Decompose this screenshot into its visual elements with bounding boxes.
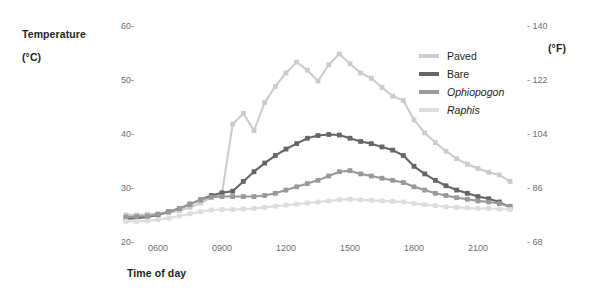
data-point-marker xyxy=(465,191,470,196)
legend: PavedBareOphiopogonRaphis xyxy=(419,47,504,119)
data-point-marker xyxy=(369,141,374,146)
data-point-marker xyxy=(486,170,491,175)
data-point-marker xyxy=(465,197,470,202)
data-point-marker xyxy=(156,211,161,216)
data-point-marker xyxy=(433,203,438,208)
data-point-marker xyxy=(412,184,417,189)
data-point-marker xyxy=(348,197,353,202)
data-point-marker xyxy=(166,210,171,215)
data-point-marker xyxy=(273,84,278,89)
data-point-marker xyxy=(508,204,513,209)
legend-item-label: Ophiopogon xyxy=(447,86,504,98)
data-point-marker xyxy=(465,206,470,211)
data-point-marker xyxy=(476,194,481,199)
data-point-marker xyxy=(316,79,321,84)
plot-area xyxy=(0,0,591,298)
y-axis-title-line1: Temperature xyxy=(22,28,86,40)
series-raphis xyxy=(124,197,513,224)
x-axis-title: Time of day xyxy=(127,267,186,279)
data-point-marker xyxy=(508,179,513,184)
legend-item-label: Paved xyxy=(447,50,477,62)
data-point-marker xyxy=(369,76,374,81)
y-axis-title-unit: (°C) xyxy=(22,51,41,63)
legend-item-ophiopogon[interactable]: Ophiopogon xyxy=(419,83,504,101)
data-point-marker xyxy=(241,194,246,199)
data-point-marker xyxy=(476,206,481,211)
data-point-marker xyxy=(262,193,267,198)
series-line xyxy=(126,171,510,217)
data-point-marker xyxy=(166,216,171,221)
data-point-marker xyxy=(401,98,406,103)
data-point-marker xyxy=(369,198,374,203)
data-point-marker xyxy=(252,128,257,133)
legend-item-bare[interactable]: Bare xyxy=(419,65,504,83)
data-point-marker xyxy=(294,141,299,146)
data-point-marker xyxy=(476,198,481,203)
data-point-marker xyxy=(134,219,139,224)
data-point-marker xyxy=(220,194,225,199)
data-point-marker xyxy=(156,212,161,217)
legend-swatch-icon xyxy=(419,54,439,58)
data-point-marker xyxy=(412,201,417,206)
y-tick-label: 30- xyxy=(108,183,134,193)
data-point-marker xyxy=(380,176,385,181)
legend-item-label: Raphis xyxy=(447,104,480,116)
data-point-marker xyxy=(380,144,385,149)
data-point-marker xyxy=(166,209,171,214)
data-point-marker xyxy=(273,191,278,196)
data-point-marker xyxy=(294,184,299,189)
data-point-marker xyxy=(433,191,438,196)
data-point-marker xyxy=(358,197,363,202)
data-point-marker xyxy=(262,205,267,210)
data-point-marker xyxy=(188,202,193,207)
data-point-marker xyxy=(348,61,353,66)
data-point-marker xyxy=(412,117,417,122)
data-point-marker xyxy=(177,206,182,211)
y2-tick-label: - 122 xyxy=(527,75,561,85)
data-point-marker xyxy=(454,195,459,200)
data-point-marker xyxy=(134,214,139,219)
data-point-marker xyxy=(241,207,246,212)
data-point-marker xyxy=(444,149,449,154)
legend-item-raphis[interactable]: Raphis xyxy=(419,101,504,119)
data-point-marker xyxy=(252,194,257,199)
data-point-marker xyxy=(145,215,150,220)
data-point-marker xyxy=(209,195,214,200)
data-point-marker xyxy=(305,136,310,141)
data-point-marker xyxy=(337,197,342,202)
data-point-marker xyxy=(433,140,438,145)
legend-item-paved[interactable]: Paved xyxy=(419,47,504,65)
series-ophiopogon xyxy=(124,168,513,219)
data-point-marker xyxy=(358,171,363,176)
data-point-marker xyxy=(316,200,321,205)
y2-tick-label: - 104 xyxy=(527,129,561,139)
data-point-marker xyxy=(497,201,502,206)
data-point-marker xyxy=(188,202,193,207)
data-point-marker xyxy=(305,181,310,186)
x-tick-label: 0900 xyxy=(202,243,242,253)
data-point-marker xyxy=(508,205,513,210)
data-point-marker xyxy=(166,209,171,214)
data-point-marker xyxy=(188,211,193,216)
data-point-marker xyxy=(454,188,459,193)
x-tick-label: 2100 xyxy=(458,243,498,253)
data-point-marker xyxy=(497,173,502,178)
series-bare xyxy=(124,132,513,221)
data-point-marker xyxy=(486,196,491,201)
x-tick-label: 1500 xyxy=(330,243,370,253)
data-point-marker xyxy=(486,206,491,211)
legend-swatch-icon xyxy=(419,72,439,76)
data-point-marker xyxy=(145,218,150,223)
data-point-marker xyxy=(284,188,289,193)
y2-tick-label: - 68 xyxy=(527,237,561,247)
legend-item-label: Bare xyxy=(447,68,469,80)
data-point-marker xyxy=(124,213,129,218)
data-point-marker xyxy=(145,214,150,219)
data-point-marker xyxy=(316,178,321,183)
data-point-marker xyxy=(326,174,331,179)
y-tick-label: 50- xyxy=(108,75,134,85)
data-point-marker xyxy=(177,214,182,219)
data-point-marker xyxy=(177,208,182,213)
y2-tick-label: - 140 xyxy=(527,21,561,31)
data-point-marker xyxy=(422,188,427,193)
